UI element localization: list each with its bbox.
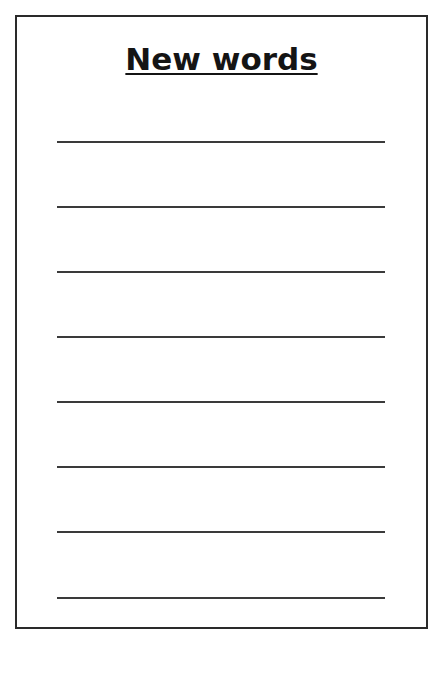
writing-line-1 [57, 141, 385, 143]
writing-line-2 [57, 206, 385, 208]
writing-line-7 [57, 531, 385, 533]
page-title: New words [17, 41, 426, 77]
title-text: New words [125, 41, 317, 77]
writing-line-6 [57, 466, 385, 468]
writing-line-3 [57, 271, 385, 273]
writing-line-5 [57, 401, 385, 403]
writing-line-4 [57, 336, 385, 338]
worksheet-frame: New words [15, 15, 428, 629]
writing-line-8 [57, 597, 385, 599]
